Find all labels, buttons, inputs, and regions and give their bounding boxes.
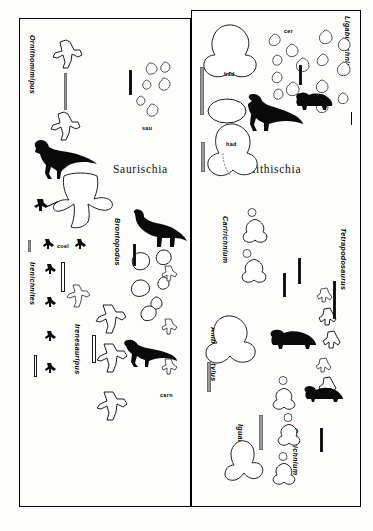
track-caririchnium-manus-2 (242, 249, 252, 258)
track-ligabueichnium-6 (337, 93, 350, 105)
track-tetrapodosaurus-manus-2 (315, 357, 333, 374)
track-cer-1 (268, 34, 282, 47)
track-ligabueichnium-3 (316, 54, 330, 67)
track-irenesauripus-large-3 (96, 390, 128, 422)
track-irenesauripus-large-1 (95, 303, 127, 335)
track-ornithomimipus-1 (50, 40, 84, 70)
track-sau-manus-2 (160, 62, 172, 73)
scale-bar-cer (299, 65, 302, 85)
track-large-theropod-left (52, 172, 114, 230)
ichnogenus-label-caririchnium-upper: Caririchnium (221, 216, 230, 263)
scale-bar-coel (28, 240, 31, 252)
scale-bar-caririchnium-upper (298, 258, 301, 284)
track-caririchnium-lower-pes-2 (277, 424, 303, 448)
scale-bar-brontopodus (133, 244, 136, 266)
clade-heading-saurischia: Saurischia (113, 163, 168, 175)
track-theropod-outline-1 (160, 265, 178, 283)
track-coel-2 (74, 238, 87, 251)
track-irenichnites-4 (44, 362, 57, 375)
track-cer-2 (285, 44, 300, 58)
trackway-figure: Saurischia Ornithischia Ornithomimipus c… (0, 0, 373, 531)
track-tetrapodosaurus-pes-2 (322, 330, 342, 350)
track-brontopodus-pes-1 (130, 280, 152, 298)
track-caririchnium-manus-1 (247, 208, 257, 217)
track-caririchnium-lower-pes-1 (272, 388, 298, 412)
scale-bar-hadrosaur-upper (200, 67, 204, 115)
track-sau-manus-1 (145, 63, 159, 75)
silhouette-ankylosaur-2 (300, 383, 344, 403)
track-irenichnites-1 (44, 263, 57, 276)
track-brontopodus-manus-2 (155, 250, 173, 266)
taxon-tag-sau: sau (142, 125, 152, 131)
track-cer-7 (273, 89, 285, 100)
scale-bar-irenesauripus (92, 335, 96, 363)
ichnogenus-label-tetrapodosaurus: Tetrapodosaurus (339, 228, 348, 290)
silhouette-carnosaur (122, 338, 178, 368)
track-tetrapodosaurus-manus-1 (316, 287, 334, 304)
track-sau-pes-2 (146, 104, 160, 117)
track-ligabueichnium-2 (337, 38, 352, 52)
ichnogenus-label-irenichnites: Irenichnites (28, 262, 37, 305)
track-caririchnium-pes-1 (242, 219, 270, 245)
track-cer-5 (271, 72, 284, 84)
track-cer-4 (295, 58, 311, 73)
silhouette-sauropod (127, 208, 189, 248)
silhouette-ceratopsian (291, 88, 333, 112)
track-caririchnium-lower-manus-2 (283, 413, 293, 422)
scale-bar-upper-left (61, 262, 65, 292)
scale-bar-extra-right (283, 273, 286, 297)
scale-bar-iguanodon (259, 415, 263, 450)
track-irenesauripus-small-1 (66, 283, 92, 309)
track-irenichnites-3 (44, 330, 57, 343)
track-caririchnium-lower-manus-1 (278, 376, 288, 385)
track-cer-3 (272, 55, 284, 66)
scale-bar-tetrapodosaurus (333, 281, 336, 319)
taxon-tag-carn: carn (160, 392, 173, 398)
track-theropod-outline-2 (160, 318, 178, 336)
track-ligabueichnium-4 (336, 62, 352, 77)
ichnogenus-label-ornithomimipus: Ornithomimipus (28, 35, 37, 94)
track-amblydactylus (203, 315, 259, 367)
track-hadrosaur-pes-lower (205, 123, 263, 183)
track-sau-manus-3 (142, 80, 152, 90)
track-caririchnium-lower-pes-3 (272, 463, 298, 487)
track-coel-1 (42, 238, 55, 251)
track-caririchnium-pes-2 (241, 259, 269, 285)
scale-bar-hadrosaur-lower (201, 142, 205, 172)
taxon-tag-cer: cer (284, 28, 293, 34)
scale-bar-caririchnium-lower (320, 428, 323, 452)
track-sau-pes-1 (158, 78, 172, 91)
taxon-tag-had-lower: had (226, 141, 237, 147)
track-caririchnium-lower-manus-3 (278, 452, 288, 461)
scale-bar-ornithomimipus-1 (64, 73, 67, 110)
track-ligabueichnium-1 (318, 30, 334, 45)
taxon-tag-had-upper: had (224, 71, 235, 77)
scale-bar-amblydactylus (207, 362, 211, 392)
scale-bar-sau (129, 70, 132, 95)
track-irenichnites-2 (44, 296, 57, 309)
track-brontopodus-pes-2 (140, 306, 158, 322)
leader-line-ligabueichnium (351, 112, 352, 125)
ichnogenus-label-brontopodus: Brontopodus (113, 218, 122, 266)
ichnogenus-label-irenesauripus: Irenesauripus (73, 324, 82, 374)
taxon-tag-coel: coel (57, 243, 69, 249)
silhouette-ankylosaur-1 (265, 325, 317, 351)
scale-bar-irenichnites (34, 355, 37, 377)
track-sau-manus-4 (136, 96, 146, 106)
